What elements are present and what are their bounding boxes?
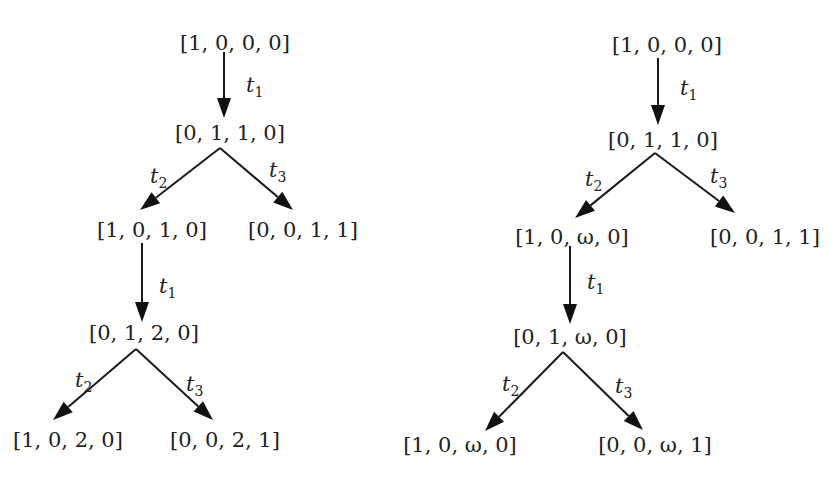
arrow-head-icon — [651, 105, 665, 125]
coverability-diagram: t1t2t3t1t2t3[1, 0, 0, 0][0, 1, 1, 0][1, … — [0, 0, 831, 492]
transition-label: t3 — [269, 158, 286, 185]
transition-label: t1 — [159, 274, 176, 301]
reachability-tree: t1t2t3t1t2t3[1, 0, 0, 0][0, 1, 1, 0][1, … — [13, 31, 358, 452]
transition-label: t2 — [585, 167, 602, 194]
edge-a1-a2: t2 — [140, 148, 220, 210]
marking-node-b3: [0, 0, 1, 1] — [710, 225, 820, 249]
edge-a1-a3: t3 — [220, 148, 293, 210]
edge-a4-a6: t3 — [136, 349, 213, 420]
edge-a0-a1: t1 — [217, 52, 263, 118]
edge-b0-b1: t1 — [651, 58, 697, 125]
marking-node-a1: [0, 1, 1, 0] — [175, 121, 285, 145]
marking-node-a3: [0, 0, 1, 1] — [248, 218, 358, 242]
transition-label: t2 — [75, 368, 92, 395]
marking-node-b5: [1, 0, ω, 0] — [403, 433, 517, 457]
edge-b1-b2: t2 — [575, 153, 655, 218]
edge-b1-b3: t3 — [655, 153, 735, 213]
marking-node-b2: [1, 0, ω, 0] — [515, 225, 629, 249]
transition-label: t2 — [502, 372, 519, 399]
arrow-head-icon — [140, 192, 160, 210]
transition-label: t2 — [150, 164, 167, 191]
marking-node-b6: [0, 0, ω, 1] — [598, 433, 712, 457]
edge-b2-b4: t1 — [563, 246, 604, 324]
edge-a4-a5: t2 — [53, 349, 136, 420]
marking-node-b1: [0, 1, 1, 0] — [608, 128, 718, 152]
arrow-head-icon — [135, 302, 149, 322]
edge-b4-b6: t3 — [563, 352, 643, 430]
arrow-head-icon — [575, 200, 595, 218]
arrow-head-icon — [217, 98, 231, 118]
marking-node-a6: [0, 0, 2, 1] — [170, 428, 280, 452]
transition-label: t3 — [615, 374, 632, 401]
edge-b4-b5: t2 — [485, 352, 563, 431]
arrow-head-icon — [563, 304, 577, 324]
transition-label: t1 — [587, 270, 604, 297]
edge-a2-a4: t1 — [135, 243, 176, 322]
marking-node-a0: [1, 0, 0, 0] — [180, 31, 290, 55]
marking-node-b0: [1, 0, 0, 0] — [612, 33, 722, 57]
marking-node-a5: [1, 0, 2, 0] — [13, 428, 123, 452]
transition-label: t3 — [710, 164, 727, 191]
transition-label: t1 — [680, 76, 697, 103]
transition-label: t3 — [186, 372, 203, 399]
coverability-tree: t1t2t3t1t2t3[1, 0, 0, 0][0, 1, 1, 0][1, … — [403, 33, 820, 457]
marking-node-a4: [0, 1, 2, 0] — [89, 321, 199, 345]
marking-node-b4: [0, 1, ω, 0] — [513, 325, 627, 349]
marking-node-a2: [1, 0, 1, 0] — [97, 218, 207, 242]
transition-label: t1 — [246, 73, 263, 100]
arrow-head-icon — [715, 195, 735, 213]
